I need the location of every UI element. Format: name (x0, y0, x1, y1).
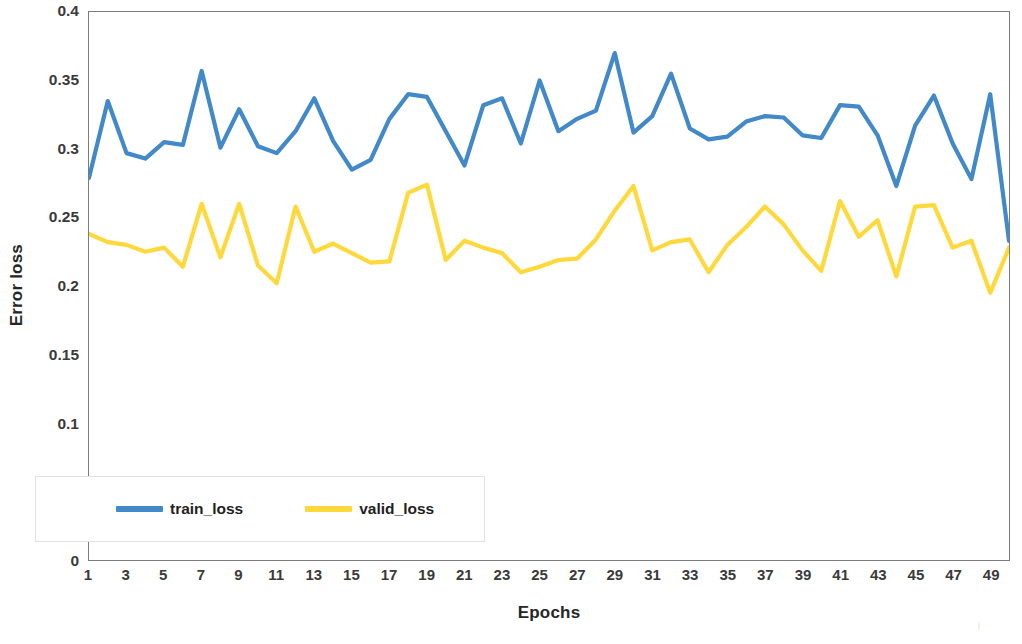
y-axis-tick-label: 0.4 (34, 2, 88, 20)
y-axis-tick-label: 0.25 (34, 208, 88, 226)
y-axis-tick-label: 0.15 (34, 346, 88, 364)
y-axis-tick-label: 0.35 (34, 71, 88, 89)
legend-label-valid-loss: valid_loss (359, 500, 434, 518)
x-axis-tick-label: 37 (757, 566, 774, 583)
x-axis-title-label: Epochs (518, 603, 581, 622)
corner-artifact-icon (975, 621, 983, 631)
x-axis-tick-label: 31 (644, 566, 661, 583)
legend-item-train-loss[interactable]: train_loss (116, 500, 243, 518)
y-axis-tick-labels: 00.050.10.150.20.250.30.350.4 (34, 0, 88, 644)
x-axis-tick-label: 27 (569, 566, 586, 583)
x-axis-tick-label: 35 (719, 566, 736, 583)
x-axis-tick-label: 1 (84, 566, 92, 583)
legend-label-train-loss: train_loss (170, 500, 243, 518)
x-axis-tick-label: 15 (343, 566, 360, 583)
x-axis-tick-label: 49 (983, 566, 1000, 583)
x-axis-tick-label: 25 (531, 566, 548, 583)
x-axis-tick-label: 39 (795, 566, 812, 583)
x-axis-tick-label: 43 (870, 566, 887, 583)
y-axis-title: Error loss (0, 0, 34, 570)
x-axis-title: Epochs (88, 603, 1010, 623)
x-axis-tick-label: 5 (159, 566, 167, 583)
x-axis-tick-label: 33 (682, 566, 699, 583)
x-axis-tick-label: 7 (197, 566, 205, 583)
x-axis-tick-label: 41 (832, 566, 849, 583)
x-axis-tick-label: 23 (494, 566, 511, 583)
x-axis-tick-label: 3 (121, 566, 129, 583)
x-axis-tick-labels: 1357911131517192123252729313335373941434… (88, 566, 1010, 592)
y-axis-tick-label: 0 (34, 552, 88, 570)
y-axis-tick-label: 0.3 (34, 140, 88, 158)
y-axis-tick-label: 0.2 (34, 277, 88, 295)
legend-item-valid-loss[interactable]: valid_loss (305, 500, 434, 518)
series-line-train-loss (89, 53, 1009, 241)
x-axis-tick-label: 11 (268, 566, 284, 583)
x-axis-tick-label: 9 (234, 566, 242, 583)
x-axis-tick-label: 19 (418, 566, 435, 583)
x-axis-tick-label: 29 (607, 566, 624, 583)
y-axis-tick-label: 0.1 (34, 415, 88, 433)
x-axis-tick-label: 13 (305, 566, 322, 583)
legend-swatch-valid-loss (305, 506, 352, 512)
x-axis-tick-label: 21 (456, 566, 473, 583)
x-axis-tick-label: 47 (945, 566, 962, 583)
line-chart: Error loss 00.050.10.150.20.250.30.350.4… (0, 0, 1022, 644)
series-line-valid-loss (89, 185, 1009, 293)
y-axis-title-label: Error loss (7, 244, 27, 326)
legend-swatch-train-loss (116, 506, 163, 512)
legend: train_loss valid_loss (35, 476, 485, 542)
x-axis-tick-label: 17 (381, 566, 398, 583)
x-axis-tick-label: 45 (908, 566, 925, 583)
